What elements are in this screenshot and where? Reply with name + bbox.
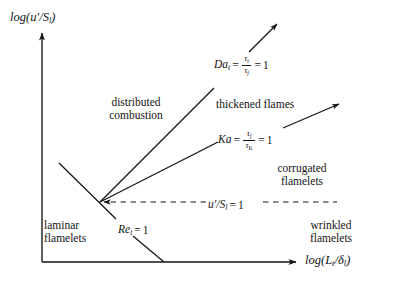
reynolds-symbol: Re <box>118 223 130 235</box>
wrinkled-flamelets-line2: flamelets <box>283 232 379 245</box>
region-label-corrugated-flamelets: corrugated flamelets <box>254 162 350 188</box>
damkohler-equals-second: = <box>254 59 261 72</box>
reynolds-boundary-line-lower <box>133 236 164 262</box>
damkohler-denominator-subscript: f <box>247 70 249 76</box>
combustion-regime-diagram: log(u′/Sl) log(Lt/δl) distributed combus… <box>0 0 407 283</box>
karlovitz-equals-second: = <box>258 134 265 147</box>
karlovitz-value: 1 <box>267 134 273 147</box>
corrugated-flamelets-line2: flamelets <box>254 175 350 188</box>
y-axis-log-text: log <box>10 10 26 24</box>
equation-damkohler: Dat = τt τf = 1 <box>214 54 269 77</box>
karlovitz-symbol: Ka <box>218 133 231 145</box>
karlovitz-denominator-subscript: K <box>248 145 252 151</box>
karlovitz-fraction: τf τK <box>243 129 254 152</box>
laminar-flamelets-line2: flamelets <box>44 232 114 245</box>
velocity-ratio-denominator-subscript: l <box>225 203 227 212</box>
x-axis-close-paren: ) <box>346 253 350 267</box>
y-axis-close-paren: ) <box>51 10 55 24</box>
karlovitz-numerator-subscript: f <box>250 132 252 138</box>
reynolds-boundary-line-upper <box>59 163 116 219</box>
region-label-wrinkled-flamelets: wrinkled flamelets <box>283 219 379 245</box>
corrugated-flamelets-line1: corrugated <box>254 162 350 175</box>
karlovitz-boundary-line-lower <box>100 142 218 202</box>
damkohler-symbol: Da <box>214 58 228 70</box>
laminar-flamelets-line1: laminar <box>44 219 114 232</box>
x-axis-log-text: log <box>305 253 321 267</box>
damkohler-boundary-line-upper <box>249 24 277 52</box>
distributed-combustion-line2: combustion <box>86 109 186 122</box>
distributed-combustion-line1: distributed <box>86 96 186 109</box>
damkohler-value: 1 <box>263 59 269 72</box>
damkohler-fraction: τt τf <box>242 54 251 77</box>
damkohler-equals-first: = <box>232 59 239 72</box>
reynolds-symbol-subscript: t <box>130 228 132 237</box>
karlovitz-equals-first: = <box>233 134 240 147</box>
velocity-ratio-value: 1 <box>238 199 244 212</box>
equation-karlovitz: Ka = τf τK = 1 <box>218 129 272 152</box>
velocity-ratio-equals: = <box>229 199 236 212</box>
region-label-thickened-flames: thickened flames <box>216 98 294 111</box>
reynolds-value: 1 <box>143 224 149 237</box>
y-axis-label: log(u′/Sl) <box>10 10 55 26</box>
region-label-distributed-combustion: distributed combustion <box>86 96 186 122</box>
equation-reynolds: Ret = 1 <box>118 219 149 238</box>
damkohler-numerator-subscript: t <box>247 57 249 63</box>
reynolds-equals: = <box>134 224 141 237</box>
wrinkled-flamelets-line1: wrinkled <box>283 219 379 232</box>
damkohler-symbol-subscript: t <box>228 63 230 72</box>
x-axis-label: log(Lt/δl) <box>305 253 350 269</box>
region-label-laminar-flamelets: laminar flamelets <box>44 219 114 245</box>
equation-velocity-ratio: u′/Sl = 1 <box>208 194 244 213</box>
